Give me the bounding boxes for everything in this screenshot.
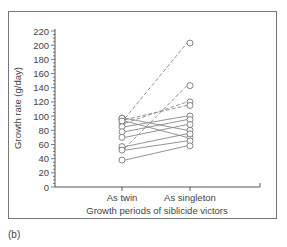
- series-line: [125, 121, 187, 137]
- series-line: [125, 118, 187, 130]
- y-axis: 020406080100120140160180200220: [33, 26, 55, 193]
- x-axis: As twinAs singleton: [55, 183, 260, 203]
- data-point-marker: [187, 131, 193, 137]
- y-tick-label: 0: [44, 182, 49, 193]
- data-point-marker: [119, 129, 125, 135]
- data-point-marker: [119, 134, 125, 140]
- y-tick-label: 20: [38, 167, 49, 178]
- y-tick-label: 180: [33, 54, 49, 65]
- x-tick-label: As twin: [107, 192, 138, 203]
- data-point-marker: [187, 83, 193, 89]
- y-tick-label: 200: [33, 40, 49, 51]
- panel-label: (b): [8, 229, 20, 240]
- y-tick-label: 220: [33, 26, 49, 37]
- y-tick-label: 80: [38, 125, 49, 136]
- data-point-marker: [119, 118, 125, 124]
- y-tick-label: 60: [38, 139, 49, 150]
- series-line: [125, 86, 187, 148]
- data-point-marker: [119, 147, 125, 153]
- y-tick-label: 100: [33, 111, 49, 122]
- growth-rate-chart: 020406080100120140160180200220 As twinAs…: [0, 0, 287, 247]
- series-line: [125, 43, 187, 118]
- x-axis-label: Growth periods of siblicide victors: [86, 205, 228, 216]
- data-point-marker: [187, 122, 193, 128]
- y-tick-label: 160: [33, 68, 49, 79]
- data-point-marker: [187, 143, 193, 149]
- y-tick-label: 40: [38, 153, 49, 164]
- series-line: [125, 146, 187, 160]
- y-axis-label: Growth rate (g/day): [12, 67, 23, 149]
- data-point-marker: [187, 40, 193, 46]
- data-series: [119, 40, 193, 163]
- y-tick-label: 140: [33, 82, 49, 93]
- series-line: [125, 141, 187, 150]
- data-point-marker: [119, 157, 125, 163]
- x-tick-label: As singleton: [164, 192, 216, 203]
- y-tick-label: 120: [33, 96, 49, 107]
- data-point-marker: [187, 102, 193, 108]
